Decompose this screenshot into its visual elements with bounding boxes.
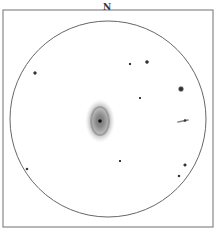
star — [128, 62, 131, 65]
star — [183, 163, 187, 167]
eyepiece-sketch — [0, 0, 216, 235]
star — [145, 60, 150, 65]
star — [33, 71, 37, 75]
star — [177, 174, 181, 178]
star — [25, 167, 29, 171]
star — [118, 159, 121, 162]
star — [139, 97, 142, 100]
north-label: N — [101, 2, 113, 12]
galaxy — [85, 99, 115, 143]
galaxy-core — [98, 119, 102, 123]
star — [178, 86, 185, 93]
